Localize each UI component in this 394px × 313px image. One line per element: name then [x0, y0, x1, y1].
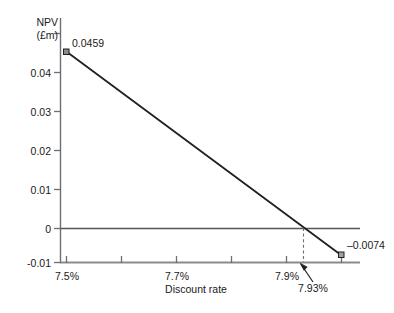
npv-sensitivity-chart: NPV (£m) 0.04 0.03 0.02 0.01 0 -0.01 7.5…	[0, 0, 394, 313]
y-tick-label-0.04: 0.04	[8, 68, 51, 79]
y-axis-title-line2: (£m)	[16, 30, 58, 41]
x-tick-label-7.7: 7.7%	[151, 271, 203, 282]
y-tick-label-0: 0	[8, 224, 51, 235]
y-tick-label-0.01: 0.01	[8, 185, 51, 196]
end-point-value-label: –0.0074	[347, 240, 385, 251]
y-tick-label-0.02: 0.02	[8, 146, 51, 157]
x-axis-title: Discount rate	[141, 284, 251, 295]
y-axis-title-line1: NPV	[16, 17, 58, 28]
npv-data-line	[67, 52, 341, 255]
x-tick-label-7.9: 7.9%	[261, 271, 313, 282]
start-point-value-label: 0.0459	[72, 38, 104, 49]
irr-callout-label: 7.93%	[287, 283, 339, 294]
chart-canvas	[0, 0, 394, 313]
data-point-marker-end	[339, 252, 345, 258]
y-tick-label-neg0.01: -0.01	[8, 258, 51, 269]
y-tick-label-0.03: 0.03	[8, 107, 51, 118]
x-tick-label-7.5: 7.5%	[41, 271, 93, 282]
data-point-marker-start	[64, 49, 70, 55]
